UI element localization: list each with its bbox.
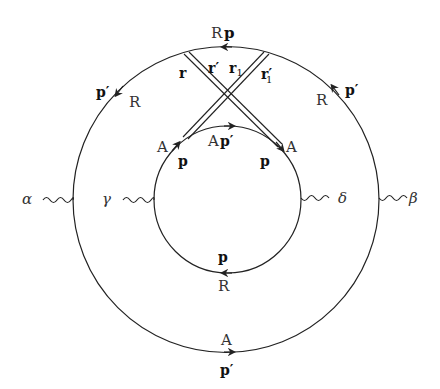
wavy-leg-alpha [43, 198, 73, 203]
label-inner-top-type: A [207, 132, 219, 150]
label-gamma: γ [102, 190, 111, 208]
label-r-prime: r′ [208, 60, 219, 76]
wavy-leg-beta [379, 196, 407, 201]
label-upper-right-type: R [316, 91, 328, 109]
arrow-icons [117, 47, 339, 352]
label-delta: δ [338, 189, 347, 207]
feynman-diagram: R p r r′ r1 r′1 p′ R R p′ A p′ A p A p α… [0, 0, 440, 389]
label-r1: r1 [229, 60, 243, 78]
label-beta: β [408, 189, 418, 207]
label-upper-left-momentum: p′ [96, 84, 110, 100]
label-inner-top-momentum: p′ [220, 133, 234, 149]
label-inner-bottom-momentum: p [218, 249, 228, 265]
wavy-leg-gamma [123, 198, 154, 203]
label-r1-prime: r′1 [261, 66, 272, 85]
label-upper-left-type: R [129, 93, 141, 111]
label-inner-right-type: A [285, 138, 297, 156]
label-outer-bottom-momentum: p′ [220, 362, 234, 378]
label-upper-right-momentum: p′ [345, 82, 359, 98]
wavy-leg-delta [301, 196, 329, 201]
label-inner-bottom-type: R [218, 277, 230, 295]
label-alpha: α [22, 190, 32, 208]
arrow-up-right-icon [172, 144, 178, 151]
label-inner-right-momentum: p [260, 153, 270, 169]
label-r: r [179, 65, 187, 81]
arrow-down-left-icon [117, 86, 123, 94]
label-inner-left-type: A [156, 138, 168, 156]
label-outer-bottom-type: A [220, 331, 232, 349]
label-top-momentum: p [224, 24, 235, 42]
label-top-type: R [211, 24, 223, 42]
label-inner-left-momentum: p [178, 153, 188, 169]
